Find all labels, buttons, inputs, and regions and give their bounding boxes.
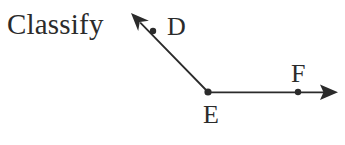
point-label-e: E [203, 102, 219, 128]
geometry-figure: Classify D E F [0, 0, 345, 145]
point-e-dot [204, 88, 211, 95]
point-d-dot [150, 28, 156, 34]
point-f-dot [295, 89, 301, 95]
point-label-f: F [291, 61, 305, 87]
prompt-text: Classify [7, 10, 104, 39]
point-label-d: D [167, 14, 186, 40]
